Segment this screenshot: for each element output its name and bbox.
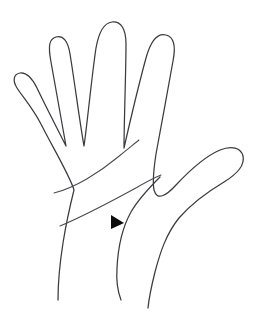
pointer-triangle-marker[interactable] [111,215,124,229]
thumb-web-path [117,177,160,300]
drawing-canvas [0,0,255,314]
hand-diagram-svg [0,0,255,314]
hand-outline-path [14,22,243,308]
palm-crease-lower [60,175,161,226]
palm-crease-upper [54,140,139,193]
